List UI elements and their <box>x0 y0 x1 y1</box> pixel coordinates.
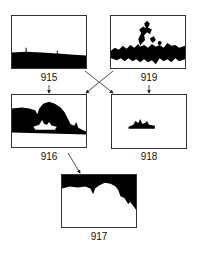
horizon-silhouette-image <box>12 16 86 68</box>
boat-silhouette-image <box>112 95 186 148</box>
label-915: 915 <box>29 73 69 83</box>
inverted-canopy-silhouette-image <box>62 175 136 227</box>
panel-917 <box>61 174 137 228</box>
arrow-915-to-918 <box>85 71 113 93</box>
arrow-919-to-916 <box>86 71 113 93</box>
panel-918 <box>111 94 187 149</box>
label-919: 919 <box>129 73 169 83</box>
panel-915 <box>11 15 87 69</box>
arrow-916-to-917 <box>68 153 80 173</box>
label-918: 918 <box>129 152 169 162</box>
trees-and-boat-silhouette-image <box>12 95 86 147</box>
panel-919 <box>110 15 186 69</box>
label-916: 916 <box>29 152 69 162</box>
foliage-texture-image <box>111 16 185 68</box>
panel-916 <box>11 94 87 148</box>
label-917: 917 <box>79 232 119 242</box>
